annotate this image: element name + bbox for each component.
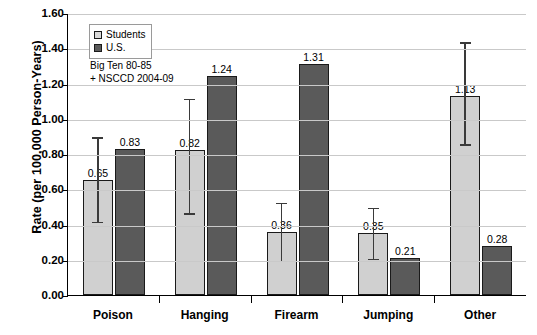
- error-bar-cap-upper: [276, 203, 287, 204]
- bar-value-label: 0.83: [110, 137, 150, 148]
- x-axis-label-poison: Poison: [67, 308, 159, 322]
- chart-annotation: Big Ten 80-85+ NSCCD 2004-09: [90, 60, 174, 85]
- error-bar: [97, 137, 98, 222]
- legend-label: U.S.: [106, 43, 125, 53]
- gridline: [68, 261, 526, 262]
- y-axis-tick: [63, 85, 68, 86]
- y-axis-tick: [63, 226, 68, 227]
- bar-other-us: [482, 246, 512, 295]
- legend-item-students: Students: [94, 29, 145, 41]
- x-axis-tick: [342, 296, 343, 303]
- x-axis-tick: [434, 296, 435, 303]
- x-axis-label-hanging: Hanging: [159, 308, 251, 322]
- y-axis-tick-label: 1.00: [20, 114, 64, 126]
- y-axis-tick-label: 0.40: [20, 220, 64, 232]
- x-axis-label-jumping: Jumping: [342, 308, 434, 322]
- y-axis-tick: [63, 49, 68, 50]
- gridline: [68, 14, 526, 15]
- error-bar-cap-lower: [184, 213, 195, 214]
- error-bar-cap-upper: [368, 208, 379, 209]
- y-axis-tick: [63, 14, 68, 15]
- y-axis-tick: [63, 261, 68, 262]
- error-bar: [464, 42, 465, 144]
- legend: StudentsU.S.: [89, 24, 152, 59]
- y-axis-tick-label: 0.00: [20, 290, 64, 302]
- y-axis-tick-label: 1.20: [20, 79, 64, 91]
- error-bar: [281, 203, 282, 261]
- y-axis-tick-label: 1.60: [20, 8, 64, 20]
- error-bar-cap-upper: [460, 42, 471, 43]
- x-axis-label-firearm: Firearm: [251, 308, 343, 322]
- bar-value-label: 0.28: [477, 234, 517, 245]
- bar-chart: Rate (per 100,000 Person-Years) 0.000.20…: [0, 0, 537, 335]
- y-axis-tick: [63, 120, 68, 121]
- gridline: [68, 120, 526, 121]
- annotation-line-2: + NSCCD 2004-09: [90, 73, 174, 86]
- error-bar-cap-lower: [460, 144, 471, 145]
- legend-label: Students: [106, 30, 145, 40]
- legend-item-us: U.S.: [94, 42, 145, 54]
- bar-hanging-us: [207, 76, 237, 295]
- y-axis-tick-label: 0.80: [20, 149, 64, 161]
- gridline: [68, 226, 526, 227]
- annotation-line-1: Big Ten 80-85: [90, 60, 174, 73]
- error-bar-cap-lower: [92, 222, 103, 223]
- gridline: [68, 155, 526, 156]
- x-axis-label-other: Other: [434, 308, 526, 322]
- x-axis-tick: [159, 296, 160, 303]
- gridline: [68, 190, 526, 191]
- bar-value-label: 1.31: [294, 52, 334, 63]
- bar-value-label: 0.21: [385, 246, 425, 257]
- bar-value-label: 1.24: [202, 64, 242, 75]
- y-axis-tick: [63, 190, 68, 191]
- bar-poison-us: [115, 149, 145, 295]
- error-bar-cap-upper: [184, 99, 195, 100]
- legend-swatch-icon: [94, 44, 102, 52]
- y-axis-tick: [63, 296, 68, 297]
- error-bar: [373, 208, 374, 259]
- y-axis-tick-label: 0.20: [20, 255, 64, 267]
- legend-swatch-icon: [94, 31, 102, 39]
- y-axis-tick-labels: 0.000.200.400.600.801.001.201.401.60: [14, 14, 64, 296]
- y-axis-tick-label: 1.40: [20, 43, 64, 55]
- y-axis-tick-label: 0.60: [20, 184, 64, 196]
- error-bar-cap-upper: [92, 137, 103, 138]
- x-axis-tick: [251, 296, 252, 303]
- bar-jumping-us: [390, 258, 420, 295]
- y-axis-tick: [63, 155, 68, 156]
